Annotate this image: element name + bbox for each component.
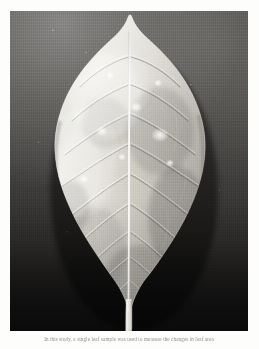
leaf-midrib [129, 31, 130, 311]
photographic-plate [10, 11, 248, 331]
page-root: In this study, a single leaf sample was … [0, 0, 259, 349]
figure-caption: In this study, a single leaf sample was … [10, 336, 248, 343]
leaf-specimen-image [10, 11, 248, 331]
leaf-petiole [126, 299, 133, 331]
